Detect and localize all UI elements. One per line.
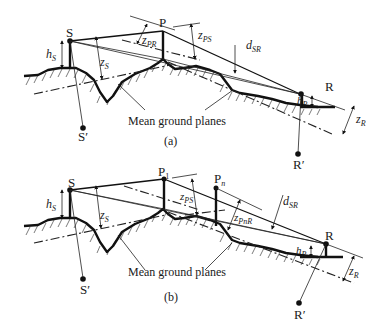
terrain-profile-a xyxy=(24,59,318,107)
label-s-prime-b: S′ xyxy=(80,283,90,296)
label-h-r-b: hR xyxy=(296,245,306,259)
label-z-ps-b: zPS xyxy=(180,191,193,205)
label-s-b: S xyxy=(68,176,75,189)
label-s-a: S xyxy=(66,26,73,39)
label-p-a: P xyxy=(159,16,166,29)
caption-b: (b) xyxy=(164,291,178,303)
panel-b xyxy=(24,174,363,306)
label-r-prime-b: R′ xyxy=(294,308,306,321)
plane-extension-pn-b xyxy=(185,210,225,215)
line-p-r-a xyxy=(163,31,300,94)
label-mean-ground-planes-a: Mean ground planes xyxy=(128,115,226,127)
label-z-pnr-b: zPnR xyxy=(234,212,252,226)
label-h-s-b: hS xyxy=(46,198,56,213)
leader-mgp-right-a xyxy=(205,90,233,110)
label-z-r-b: zR xyxy=(349,265,359,280)
label-z-s-a: zS xyxy=(100,56,109,71)
label-z-pr-a: zPR xyxy=(142,34,156,49)
label-r-a: R xyxy=(325,80,334,93)
line-s-p1-b xyxy=(70,179,164,190)
label-z-r-a: zR xyxy=(356,113,366,128)
label-d-sr-b: dSR xyxy=(283,195,298,210)
label-h-s-a: hS xyxy=(46,48,56,63)
panel-a xyxy=(24,16,354,157)
line-s-peak-b xyxy=(70,190,164,209)
leader-mgp-left-a xyxy=(118,84,145,110)
label-r-prime-a: R′ xyxy=(293,158,305,171)
terrain-hatching-b xyxy=(26,213,320,265)
label-mean-ground-planes-b: Mean ground planes xyxy=(128,266,226,278)
caption-a: (a) xyxy=(164,135,177,147)
label-p1-b: P1 xyxy=(158,165,169,181)
image-point-r-prime-b xyxy=(296,300,302,306)
ref-line-zpr-a xyxy=(130,16,175,30)
ref-line-zps-b xyxy=(172,174,197,178)
label-r-b: R xyxy=(325,229,334,242)
dim-z-ps-a xyxy=(191,24,195,59)
ref-line-zps-a xyxy=(173,23,200,27)
terrain-hatching-a xyxy=(26,63,320,115)
label-h-r-a: hR xyxy=(297,95,307,109)
ref-line-pn-b xyxy=(216,188,262,210)
label-s-prime-a: S′ xyxy=(78,130,88,143)
propagation-geometry-diagram xyxy=(0,0,382,332)
label-z-s-b: zS xyxy=(100,209,109,224)
label-z-ps-a: zPS xyxy=(198,29,212,44)
image-line-s-b xyxy=(70,190,83,278)
image-point-s-prime-b xyxy=(80,276,86,282)
label-d-sr-a: dSR xyxy=(246,39,261,54)
image-line-s-a xyxy=(70,41,83,127)
image-point-r-prime-a xyxy=(295,151,301,157)
label-pn-b: Pn xyxy=(214,172,225,188)
